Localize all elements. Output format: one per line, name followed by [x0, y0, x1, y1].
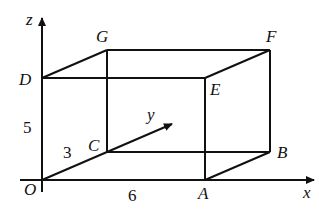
label-z: z [25, 10, 33, 29]
label-C: C [88, 136, 100, 155]
label-D: D [18, 70, 32, 89]
label-G: G [96, 27, 108, 46]
dim-length: 6 [128, 186, 137, 205]
label-A: A [197, 184, 209, 203]
edge-DG [42, 50, 107, 78]
edge-AB [205, 152, 270, 180]
label-B: B [277, 143, 288, 162]
box-diagram: z x y G F D E C B A O 5 3 6 [0, 0, 319, 222]
box-edges [42, 50, 270, 180]
label-O: O [24, 180, 36, 199]
diagram-canvas: z x y G F D E C B A O 5 3 6 [0, 0, 319, 222]
dim-height: 5 [23, 118, 32, 137]
label-F: F [265, 27, 277, 46]
edge-EF [205, 50, 270, 78]
label-y: y [145, 105, 155, 124]
dim-width: 3 [63, 143, 72, 162]
label-E: E [209, 80, 221, 99]
label-x: x [302, 183, 311, 202]
